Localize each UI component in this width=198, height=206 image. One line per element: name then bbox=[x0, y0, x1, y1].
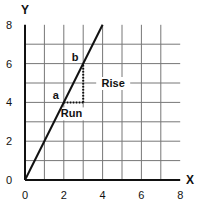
x-tick-label: 4 bbox=[100, 189, 106, 201]
slope-chart: 0246802468 RunRise ab X Y bbox=[0, 0, 198, 206]
rise-label: Rise bbox=[102, 77, 125, 89]
x-tick-label: 8 bbox=[177, 189, 183, 201]
point-label-b: b bbox=[72, 51, 79, 63]
y-tick-label: 0 bbox=[6, 174, 12, 186]
x-tick-label: 0 bbox=[22, 189, 28, 201]
point-labels: ab bbox=[53, 51, 79, 102]
y-tick-label: 6 bbox=[6, 58, 12, 70]
x-axis-label: X bbox=[186, 173, 194, 187]
grid-lines bbox=[25, 25, 180, 180]
point-label-a: a bbox=[53, 89, 60, 101]
tick-labels: 0246802468 bbox=[6, 19, 183, 201]
x-tick-label: 6 bbox=[138, 189, 144, 201]
run-label: Run bbox=[61, 107, 83, 119]
y-tick-label: 4 bbox=[6, 96, 12, 108]
y-tick-label: 8 bbox=[6, 19, 12, 31]
y-tick-label: 2 bbox=[6, 135, 12, 147]
x-tick-label: 2 bbox=[61, 189, 67, 201]
y-axis-label: Y bbox=[21, 3, 29, 17]
